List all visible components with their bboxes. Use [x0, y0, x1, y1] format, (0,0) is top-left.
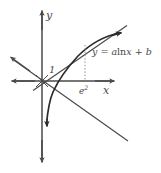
curve-equation-label: y = alnx + b — [92, 47, 152, 57]
eq-b: b — [146, 46, 152, 57]
math-figure: y x e2 1 y = alnx + b — [0, 0, 161, 173]
eq-plus: + — [135, 46, 143, 57]
slope-one-label: 1 — [49, 65, 55, 75]
descending-line — [11, 57, 129, 141]
x-tick-label-e-squared: e2 — [79, 85, 88, 96]
y-axis-label: y — [46, 10, 52, 21]
eq-ln: ln — [117, 46, 126, 57]
e-exponent: 2 — [84, 84, 88, 91]
x-axis-label: x — [103, 85, 109, 96]
